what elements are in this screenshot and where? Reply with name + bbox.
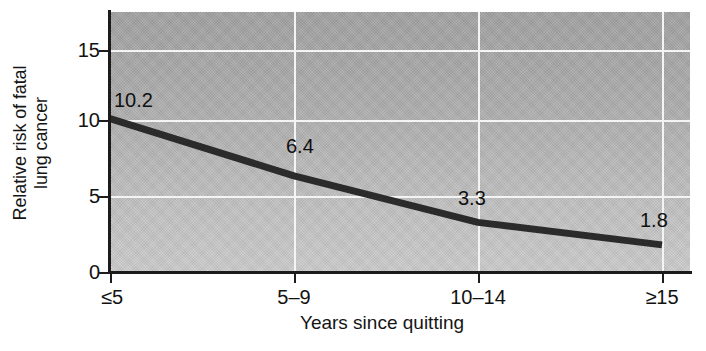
- chart-figure: Relative risk of fatal lung cancer 15 10…: [0, 0, 706, 351]
- y-tick-label-0: 0: [66, 262, 100, 282]
- x-axis-title: Years since quitting: [0, 312, 706, 334]
- x-tick-label-le5: ≤5: [101, 286, 123, 308]
- data-label-2: 3.3: [458, 188, 486, 208]
- y-axis-title: Relative risk of fatal lung cancer: [0, 0, 62, 285]
- x-axis-tick-labels: ≤5 5–9 10–14 ≥15: [110, 272, 690, 312]
- y-axis-tick-labels: 15 10 5 0: [62, 0, 100, 351]
- y-axis-title-line-2: lung cancer: [31, 65, 52, 220]
- series-line-relative-risk: [110, 12, 690, 272]
- y-tick-label-15: 15: [66, 40, 100, 60]
- x-tick-label-ge15: ≥15: [645, 286, 678, 308]
- x-tick-label-10-14: 10–14: [450, 286, 506, 308]
- y-tick-label-5: 5: [66, 186, 100, 206]
- x-tick-label-5-9: 5–9: [277, 286, 310, 308]
- data-label-3: 1.8: [640, 210, 668, 230]
- y-axis-title-line-1: Relative risk of fatal: [10, 65, 31, 220]
- data-label-1: 6.4: [286, 136, 314, 156]
- plot-area: 10.2 6.4 3.3 1.8: [110, 12, 690, 272]
- x-axis-spine: [108, 271, 692, 274]
- y-axis-spine: [108, 10, 111, 274]
- y-tick-label-10: 10: [66, 110, 100, 130]
- x-axis-title-text: Years since quitting: [300, 312, 464, 334]
- data-label-0: 10.2: [114, 90, 153, 110]
